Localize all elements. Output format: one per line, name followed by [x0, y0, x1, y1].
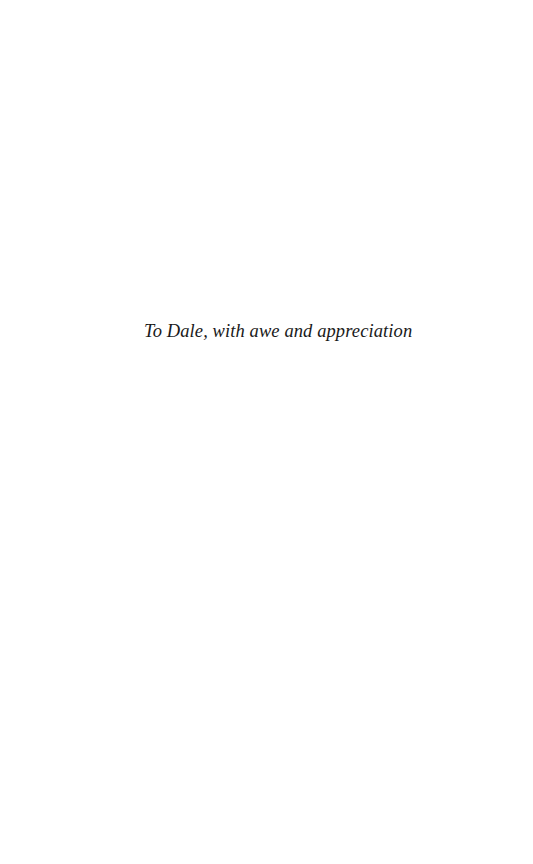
book-page: To Dale, with awe and appreciation	[0, 0, 533, 864]
dedication-text: To Dale, with awe and appreciation	[144, 321, 412, 342]
